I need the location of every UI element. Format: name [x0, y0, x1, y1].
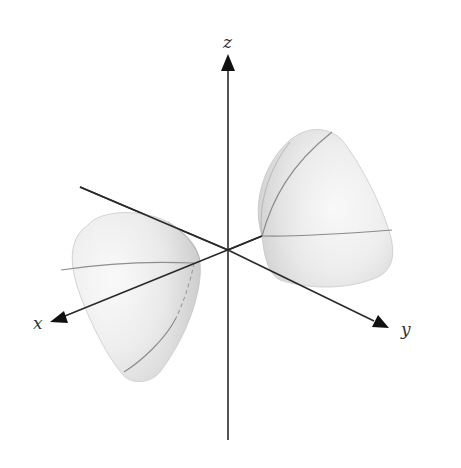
hyperboloid-diagram	[0, 0, 461, 468]
z-axis-label: z	[223, 34, 232, 51]
right-sheet-surface	[258, 129, 393, 287]
y-axis-label: y	[401, 321, 411, 338]
left-sheet-surface	[61, 213, 200, 382]
y-axis-arrowhead	[372, 315, 389, 328]
z-axis-arrowhead	[221, 54, 235, 71]
x-axis-arrowhead	[50, 311, 68, 323]
x-axis-label: x	[33, 315, 43, 332]
